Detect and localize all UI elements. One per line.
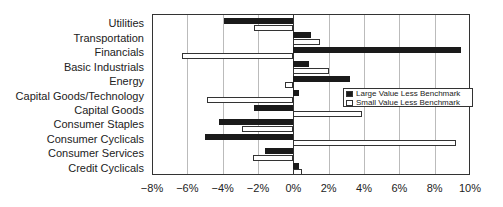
x-tick-label: 4% [356, 182, 372, 194]
bar-chart: UtilitiesTransportationFinancialsBasic I… [0, 0, 503, 207]
x-tick-label: 10% [459, 182, 481, 194]
bar-large-value [205, 134, 293, 140]
legend-item-small: Small Value Less Benchmark [346, 99, 470, 108]
bar-large-value [293, 32, 311, 38]
legend-swatch-small [346, 100, 353, 106]
legend-label-large: Large Value Less Benchmark [356, 90, 460, 98]
legend: Large Value Less Benchmark Small Value L… [343, 88, 473, 107]
category-label: Energy [109, 74, 144, 88]
bar-large-value [254, 105, 293, 111]
bar-small-value [293, 169, 302, 175]
x-tick-label: 6% [391, 182, 407, 194]
category-label: Financials [94, 45, 144, 59]
x-tick-label: −2% [247, 182, 269, 194]
bar-large-value [219, 119, 293, 125]
x-tick-label: −6% [176, 182, 198, 194]
bar-small-value [253, 155, 294, 161]
x-tick-label: −8% [141, 182, 163, 194]
category-label: Credit Cyclicals [68, 161, 144, 175]
legend-swatch-large [346, 91, 353, 97]
legend-item-large: Large Value Less Benchmark [346, 90, 470, 99]
bar-small-value [182, 53, 293, 59]
bar-large-value [224, 18, 293, 24]
bar-small-value [242, 126, 293, 132]
bar-small-value [293, 140, 456, 146]
gridline [329, 15, 330, 174]
category-label: Consumer Staples [54, 117, 145, 131]
category-label: Utilities [109, 16, 144, 30]
bar-large-value [265, 148, 293, 154]
category-label: Consumer Services [48, 146, 144, 160]
category-label: Transportation [73, 31, 144, 45]
bar-small-value [293, 39, 320, 45]
bar-small-value [293, 111, 362, 117]
x-tick-label: 2% [321, 182, 337, 194]
category-label: Capital Goods/Technology [16, 89, 144, 103]
bar-large-value [293, 47, 461, 53]
bar-large-value [293, 163, 298, 169]
bar-large-value [293, 90, 298, 96]
x-tick-label: 8% [427, 182, 443, 194]
bar-small-value [254, 25, 293, 31]
bar-small-value [285, 82, 294, 88]
gridline [258, 15, 259, 174]
x-tick-label: 0% [285, 182, 301, 194]
gridline [223, 15, 224, 174]
category-label: Consumer Cyclicals [47, 132, 144, 146]
category-label: Capital Goods [74, 103, 144, 117]
bar-large-value [293, 76, 350, 82]
bar-large-value [293, 61, 309, 67]
category-label: Basic Industrials [64, 60, 144, 74]
bar-small-value [207, 97, 294, 103]
x-tick-label: −4% [211, 182, 233, 194]
bar-small-value [293, 68, 328, 74]
gridline [187, 15, 188, 174]
legend-label-small: Small Value Less Benchmark [356, 99, 460, 107]
